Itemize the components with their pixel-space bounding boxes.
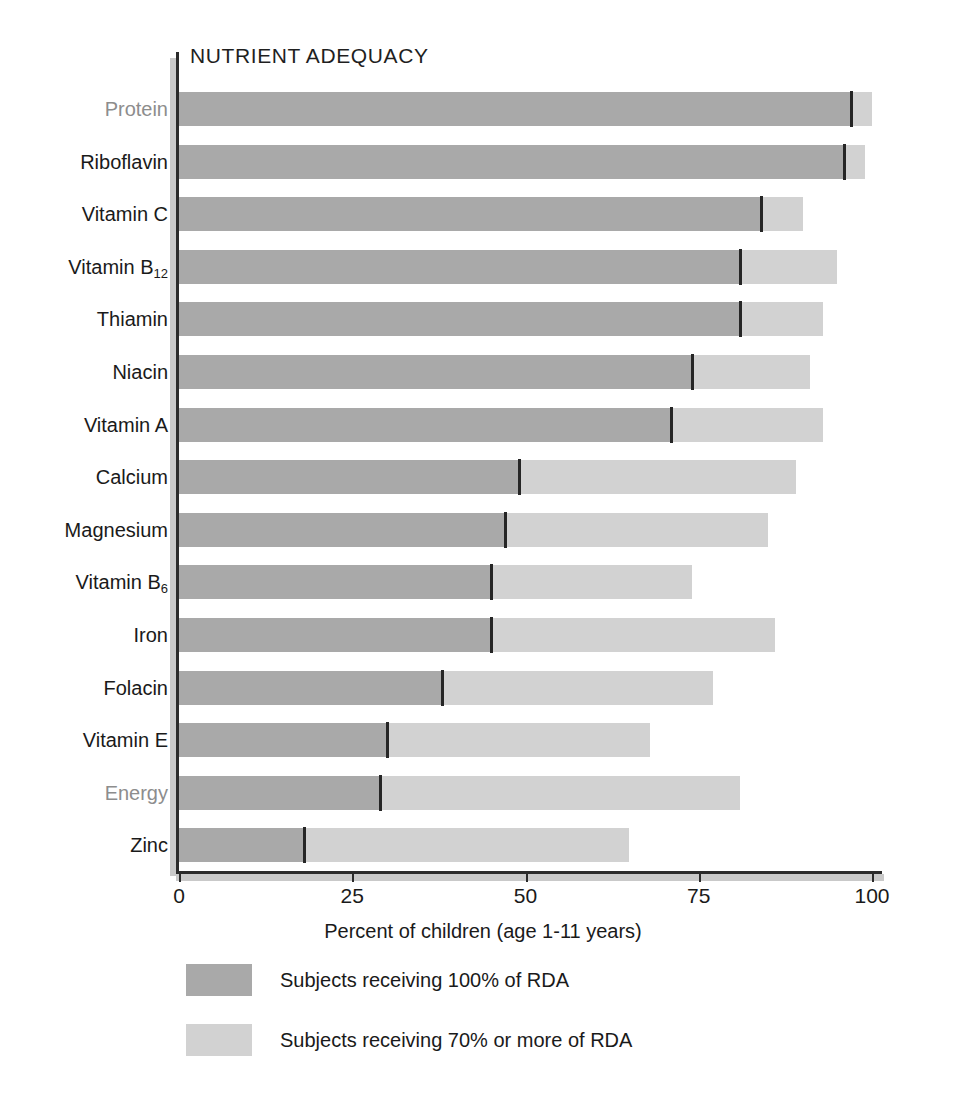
bar-divider-tick bbox=[850, 91, 853, 127]
bar-divider-tick bbox=[760, 196, 763, 232]
nutrient-adequacy-chart: NUTRIENT ADEQUACY ProteinRiboflavinVitam… bbox=[0, 0, 966, 1097]
bar-row: Vitamin E bbox=[0, 723, 966, 757]
bar-divider-tick bbox=[504, 512, 507, 548]
bar-row-label: Vitamin B6 bbox=[76, 565, 168, 599]
x-tick-mark bbox=[699, 871, 701, 882]
bar-row-label: Niacin bbox=[112, 355, 168, 389]
bar-divider-tick bbox=[739, 249, 742, 285]
x-tick-mark bbox=[179, 871, 181, 882]
bar-group bbox=[179, 250, 837, 284]
x-tick-label: 25 bbox=[341, 884, 364, 908]
bar-row: Calcium bbox=[0, 460, 966, 494]
bar-group bbox=[179, 197, 803, 231]
bar-group bbox=[179, 828, 629, 862]
bar-rows: ProteinRiboflavinVitamin CVitamin B12Thi… bbox=[0, 0, 966, 880]
bar-group bbox=[179, 671, 713, 705]
bar-row-label: Magnesium bbox=[65, 513, 168, 547]
bar-row-label: Thiamin bbox=[97, 302, 168, 336]
bar-row: Folacin bbox=[0, 671, 966, 705]
bar-segment-100pct bbox=[179, 618, 491, 652]
bar-segment-100pct bbox=[179, 671, 442, 705]
bar-group bbox=[179, 513, 768, 547]
bar-divider-tick bbox=[670, 407, 673, 443]
bar-row-label: Riboflavin bbox=[80, 145, 168, 179]
x-axis-ticks: 0255075100 bbox=[0, 868, 966, 928]
bar-segment-100pct bbox=[179, 145, 844, 179]
legend-item: Subjects receiving 100% of RDA bbox=[186, 960, 886, 1004]
bar-divider-tick bbox=[518, 459, 521, 495]
bar-group bbox=[179, 408, 823, 442]
bar-divider-tick bbox=[843, 144, 846, 180]
x-tick-mark bbox=[872, 871, 874, 882]
x-tick-label: 100 bbox=[854, 884, 889, 908]
bar-group bbox=[179, 302, 823, 336]
bar-divider-tick bbox=[441, 670, 444, 706]
bar-group bbox=[179, 355, 810, 389]
bar-segment-100pct bbox=[179, 565, 491, 599]
bar-divider-tick bbox=[303, 827, 306, 863]
bar-row-label: Calcium bbox=[96, 460, 168, 494]
legend-item: Subjects receiving 70% or more of RDA bbox=[186, 1020, 886, 1064]
bar-row-label: Iron bbox=[134, 618, 168, 652]
bar-divider-tick bbox=[386, 722, 389, 758]
bar-row-label: Vitamin A bbox=[84, 408, 168, 442]
legend-swatch bbox=[186, 964, 252, 996]
bar-segment-100pct bbox=[179, 723, 387, 757]
bar-row: Vitamin B12 bbox=[0, 250, 966, 284]
legend-swatch bbox=[186, 1024, 252, 1056]
bar-segment-100pct bbox=[179, 92, 851, 126]
bar-row-label: Protein bbox=[105, 92, 168, 126]
legend-label: Subjects receiving 70% or more of RDA bbox=[280, 1020, 632, 1060]
bar-divider-tick bbox=[739, 301, 742, 337]
chart-legend: Subjects receiving 100% of RDASubjects r… bbox=[186, 960, 886, 1080]
bar-row: Energy bbox=[0, 776, 966, 810]
bar-segment-100pct bbox=[179, 355, 692, 389]
bar-row-label: Energy bbox=[105, 776, 168, 810]
bar-divider-tick bbox=[490, 617, 493, 653]
bar-row-label: Vitamin C bbox=[82, 197, 168, 231]
x-axis-label: Percent of children (age 1-11 years) bbox=[0, 920, 966, 943]
bar-row-label: Vitamin B12 bbox=[68, 250, 168, 284]
bar-row: Niacin bbox=[0, 355, 966, 389]
x-tick-label: 50 bbox=[514, 884, 537, 908]
bar-row: Iron bbox=[0, 618, 966, 652]
bar-segment-100pct bbox=[179, 460, 519, 494]
bar-group bbox=[179, 618, 775, 652]
bar-segment-100pct bbox=[179, 408, 671, 442]
x-tick-label: 0 bbox=[173, 884, 185, 908]
bar-row: Thiamin bbox=[0, 302, 966, 336]
bar-row: Vitamin C bbox=[0, 197, 966, 231]
bar-group bbox=[179, 145, 865, 179]
bar-segment-100pct bbox=[179, 828, 304, 862]
bar-divider-tick bbox=[490, 564, 493, 600]
bar-segment-100pct bbox=[179, 250, 740, 284]
bar-divider-tick bbox=[379, 775, 382, 811]
bar-row: Protein bbox=[0, 92, 966, 126]
bar-row: Riboflavin bbox=[0, 145, 966, 179]
bar-segment-100pct bbox=[179, 513, 505, 547]
bar-group bbox=[179, 565, 692, 599]
bar-row: Zinc bbox=[0, 828, 966, 862]
bar-row-label: Folacin bbox=[104, 671, 168, 705]
bar-row: Magnesium bbox=[0, 513, 966, 547]
bar-row-label: Vitamin E bbox=[83, 723, 168, 757]
x-tick-label: 75 bbox=[687, 884, 710, 908]
bar-row-label: Zinc bbox=[130, 828, 168, 862]
bar-group bbox=[179, 723, 650, 757]
bar-row: Vitamin B6 bbox=[0, 565, 966, 599]
bar-group bbox=[179, 776, 740, 810]
x-tick-mark bbox=[352, 871, 354, 882]
legend-label: Subjects receiving 100% of RDA bbox=[280, 960, 569, 1000]
bar-group bbox=[179, 460, 796, 494]
bar-segment-100pct bbox=[179, 197, 761, 231]
bar-divider-tick bbox=[691, 354, 694, 390]
bar-group bbox=[179, 92, 872, 126]
bar-row: Vitamin A bbox=[0, 408, 966, 442]
x-tick-mark bbox=[526, 871, 528, 882]
bar-segment-100pct bbox=[179, 302, 740, 336]
bar-segment-100pct bbox=[179, 776, 380, 810]
